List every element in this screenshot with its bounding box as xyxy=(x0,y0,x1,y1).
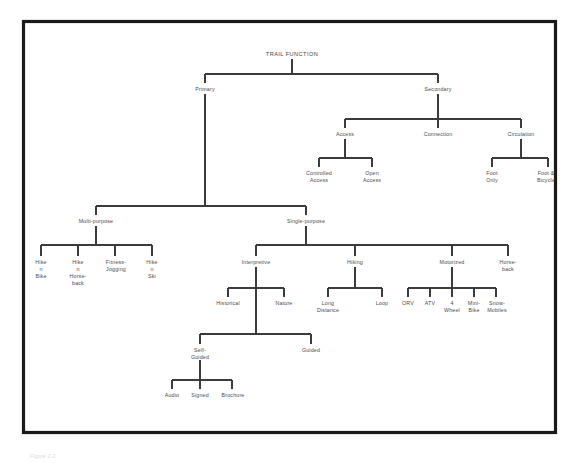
node-circulation: Circulation xyxy=(507,131,534,137)
connector-circulation xyxy=(492,139,548,167)
node-foot-only-line2: Only xyxy=(486,177,498,183)
node-horse-back: Horse- back xyxy=(500,259,517,272)
node-primary: Primary xyxy=(195,86,215,92)
node-4-wheel: 4 Wheel xyxy=(444,300,460,313)
node-hike-n-ski-line2: n xyxy=(150,266,153,272)
node-horse-back-line2: back xyxy=(502,266,514,272)
node-loop: Loop xyxy=(376,300,389,306)
node-nature: Nature xyxy=(276,300,293,306)
node-snow-mobiles: Snow- Mobiles xyxy=(487,300,507,313)
node-guided: Guided xyxy=(302,347,320,353)
node-single-purpose: Single-purpose xyxy=(287,218,325,224)
connector-interpretive-guided xyxy=(200,288,311,344)
node-foot-bicycle-line2: Bicycle xyxy=(537,177,555,183)
node-controlled-access-line2: Access xyxy=(310,177,328,183)
connector-single-purpose xyxy=(256,226,508,256)
node-hike-n-ski: Hike n Ski xyxy=(146,259,157,279)
node-open-access: Open Access xyxy=(363,170,381,183)
node-interpretive: Interpretive xyxy=(242,259,271,265)
node-mini-bike-line2: Bike xyxy=(468,307,479,313)
node-long-distance-line1: Long xyxy=(322,300,335,306)
node-secondary: Secondary xyxy=(425,86,452,92)
node-open-access-line2: Access xyxy=(363,177,381,183)
node-multi-purpose: Multi-purpose xyxy=(79,218,113,224)
connector-primary-spine xyxy=(96,94,306,215)
diagram-frame xyxy=(24,22,556,433)
node-fitness-jogging-line2: Jogging xyxy=(106,266,126,272)
node-mini-bike-line1: Mini- xyxy=(468,300,480,306)
node-snow-mobiles-line2: Mobiles xyxy=(487,307,507,313)
figure-caption: Figure 2-2 xyxy=(30,453,56,459)
node-atv: ATV xyxy=(425,300,436,306)
node-hike-n-bike-line1: Hike xyxy=(35,259,46,265)
node-mini-bike: Mini- Bike xyxy=(468,300,480,313)
node-self-guided-line1: Self- xyxy=(194,347,206,353)
node-signed: Signed xyxy=(191,392,209,398)
node-4-wheel-line2: Wheel xyxy=(444,307,460,313)
node-hike-n-bike: Hike n Bike xyxy=(35,259,46,279)
node-orv: ORV xyxy=(402,300,414,306)
node-motorized: Motorized xyxy=(440,259,465,265)
node-hike-n-horseback-line2: n xyxy=(76,266,79,272)
connector-motorized xyxy=(408,267,496,297)
node-historical: Historical xyxy=(216,300,240,306)
node-hike-n-horseback-line3: Horse- xyxy=(70,273,87,279)
node-audio: Audio xyxy=(165,392,179,398)
connector-hiking xyxy=(328,267,382,297)
node-foot-bicycle: Foot & Bicycle xyxy=(537,170,555,183)
node-long-distance: Long Distance xyxy=(317,300,339,313)
node-open-access-line1: Open xyxy=(365,170,379,176)
node-horse-back-line1: Horse- xyxy=(500,259,517,265)
node-hike-n-horseback-line4: back xyxy=(72,280,84,286)
node-access: Access xyxy=(336,131,354,137)
node-hike-n-bike-line3: Bike xyxy=(35,273,46,279)
node-hike-n-ski-line3: Ski xyxy=(148,273,156,279)
node-hike-n-horseback: Hike n Horse- back xyxy=(70,259,87,286)
node-foot-only: Foot Only xyxy=(486,170,498,183)
node-hike-n-ski-line1: Hike xyxy=(146,259,157,265)
node-4-wheel-line1: 4 xyxy=(450,300,453,306)
node-self-guided-line2: Guided xyxy=(191,354,209,360)
node-snow-mobiles-line1: Snow- xyxy=(489,300,505,306)
connector-secondary xyxy=(345,94,521,128)
node-foot-bicycle-line1: Foot & xyxy=(538,170,555,176)
node-trail-function: TRAIL FUNCTION xyxy=(266,51,318,57)
node-hike-n-bike-line2: n xyxy=(39,266,42,272)
connector-multi-purpose xyxy=(41,226,152,256)
node-controlled-access-line1: Controlled xyxy=(306,170,332,176)
diagram-canvas: TRAIL FUNCTION Primary Secondary Access … xyxy=(0,0,578,469)
node-controlled-access: Controlled Access xyxy=(306,170,332,183)
connector-root xyxy=(205,59,438,83)
connector-access xyxy=(319,139,372,167)
node-fitness-jogging: Fitness- Jogging xyxy=(106,259,126,272)
node-connection: Connection xyxy=(424,131,453,137)
node-self-guided: Self- Guided xyxy=(191,347,209,360)
node-hiking: Hiking xyxy=(347,259,363,265)
node-long-distance-line2: Distance xyxy=(317,307,339,313)
node-foot-only-line1: Foot xyxy=(486,170,498,176)
node-brochure: Brochure xyxy=(222,392,245,398)
node-fitness-jogging-line1: Fitness- xyxy=(106,259,126,265)
trail-function-diagram: TRAIL FUNCTION Primary Secondary Access … xyxy=(0,0,578,469)
node-hike-n-horseback-line1: Hike xyxy=(72,259,83,265)
connector-self-guided xyxy=(172,360,232,389)
